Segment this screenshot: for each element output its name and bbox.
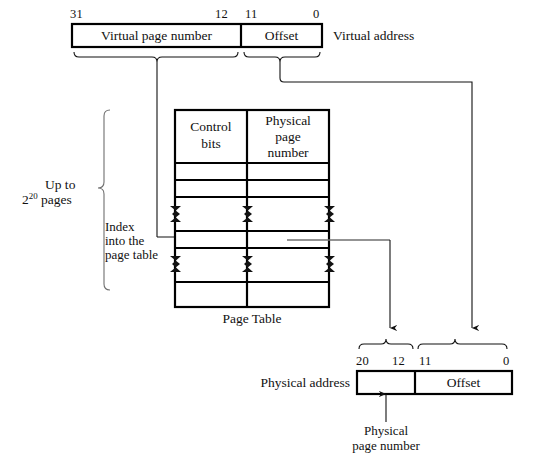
index-annotation-line3: page table <box>105 248 158 263</box>
brace-offset <box>244 52 320 62</box>
column-header-physical-page-number-line2: page <box>247 129 329 144</box>
capacity-annotation-line1: Up to <box>45 177 75 192</box>
physical-address-caption: Physical address <box>250 375 350 390</box>
column-header-physical-page-number-line1: Physical <box>247 113 329 128</box>
brace-page-capacity <box>98 110 110 290</box>
paddr-bit-11: 11 <box>419 354 432 368</box>
brace-physical-page-number-field <box>359 339 413 349</box>
capacity-base: 2 <box>22 192 29 207</box>
column-header-control-bits-line1: Control <box>175 119 247 134</box>
page-table-caption: Page Table <box>175 311 329 326</box>
capacity-annotation-line2: 220 pages <box>22 192 72 207</box>
capacity-exponent: 20 <box>29 191 38 201</box>
brace-physical-offset-field <box>418 339 507 349</box>
column-header-control-bits-line2: bits <box>175 136 247 151</box>
vaddr-bit-31: 31 <box>70 7 83 21</box>
paddr-bit-20: 20 <box>356 354 369 368</box>
column-header-physical-page-number-line3: number <box>247 145 329 160</box>
virtual-address-caption: Virtual address <box>333 28 414 43</box>
physical-page-number-caption-line1: Physical <box>326 424 446 439</box>
physical-page-number-caption-line2: page number <box>316 439 456 454</box>
figure-canvas: 31 12 11 0 Virtual page number Offset Vi… <box>0 0 534 472</box>
vaddr-bit-11: 11 <box>245 7 258 21</box>
capacity-rest: pages <box>38 192 72 207</box>
diagram-vectors <box>0 0 534 472</box>
physical-offset-field-label: Offset <box>415 375 512 390</box>
vaddr-bit-0: 0 <box>313 7 320 21</box>
brace-virtual-page-number <box>74 52 238 62</box>
offset-field-label: Offset <box>241 28 322 43</box>
vaddr-bit-12: 12 <box>215 7 228 21</box>
paddr-bit-12: 12 <box>392 354 405 368</box>
virtual-page-number-field-label: Virtual page number <box>72 28 241 43</box>
paddr-bit-0: 0 <box>503 354 510 368</box>
